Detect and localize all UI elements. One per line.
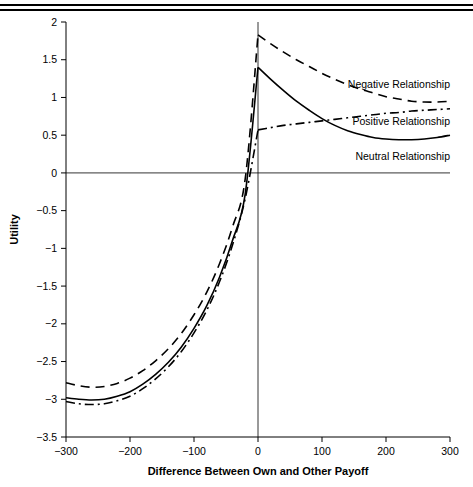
x-tick-label: −200 <box>118 445 142 457</box>
figure-container: −3.5−3−2.5−2−1.5−1−0.500.511.52−300−200−… <box>0 0 473 487</box>
y-tick-label: −0.5 <box>36 204 57 216</box>
y-axis-title: Utility <box>8 213 20 244</box>
series-label-positive-relationship: Positive Relationship <box>353 115 451 127</box>
x-tick-label: −100 <box>182 445 206 457</box>
utility-line-chart: −3.5−3−2.5−2−1.5−1−0.500.511.52−300−200−… <box>0 0 473 487</box>
y-tick-label: 0.5 <box>42 129 57 141</box>
x-tick-label: 300 <box>441 445 459 457</box>
y-tick-label: 1 <box>51 91 57 103</box>
y-tick-label: −1 <box>45 242 57 254</box>
y-tick-label: −3 <box>45 393 57 405</box>
x-axis-title: Difference Between Own and Other Payoff <box>148 465 369 477</box>
y-tick-label: 0 <box>51 167 57 179</box>
y-tick-label: −2.5 <box>36 355 57 367</box>
x-tick-label: 100 <box>313 445 331 457</box>
series-label-negative-relationship: Negative Relationship <box>348 78 450 90</box>
y-tick-label: −2 <box>45 317 57 329</box>
y-tick-label: −3.5 <box>36 431 57 443</box>
y-tick-label: 1.5 <box>42 53 57 65</box>
series-label-neutral-relationship: Neutral Relationship <box>355 150 450 162</box>
y-tick-label: −1.5 <box>36 280 57 292</box>
y-tick-label: 2 <box>51 16 57 28</box>
x-tick-label: −300 <box>54 445 78 457</box>
x-tick-label: 0 <box>255 445 261 457</box>
x-tick-label: 200 <box>377 445 395 457</box>
